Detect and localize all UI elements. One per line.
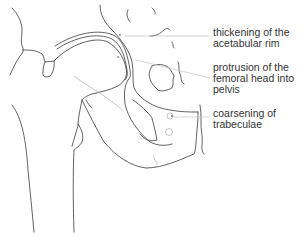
label-line: acetabular rim xyxy=(213,38,289,49)
label-trabeculae: coarsening of trabeculae xyxy=(213,108,276,130)
sacral-contour-3 xyxy=(150,29,170,37)
ilium-outline-left xyxy=(10,8,23,75)
leader-dot-trabeculae xyxy=(171,115,173,117)
acetabular-rim-outer xyxy=(55,32,130,80)
leader-line-femoral-head xyxy=(136,60,210,78)
pelvic-wall-right xyxy=(100,5,198,112)
intertrochanteric-line xyxy=(86,100,92,108)
leader-dot-acetabular-rim xyxy=(119,34,121,36)
femoral-shaft-medial xyxy=(73,150,74,232)
ilium-notch xyxy=(23,50,54,77)
femoral-head xyxy=(54,40,127,100)
obturator-edge xyxy=(133,100,157,141)
sacral-contour-4 xyxy=(172,42,174,48)
sacral-contour-1 xyxy=(127,10,130,22)
acetabular-rim-inner xyxy=(57,36,127,80)
sacral-contour-5 xyxy=(178,62,184,84)
label-acetabular-rim: thickening of the acetabular rim xyxy=(213,27,289,49)
greater-trochanter xyxy=(74,124,83,150)
label-line: pelvis xyxy=(213,84,294,95)
label-femoral-head-protrusion: protrusion of the femoral head into pelv… xyxy=(213,62,294,95)
femoral-neck-line xyxy=(72,100,82,146)
trabecular-patch-2 xyxy=(166,129,173,136)
femoral-shaft-lateral xyxy=(12,105,34,232)
leader-dot-femoral-head xyxy=(117,56,119,58)
pubic-edge xyxy=(200,105,204,154)
sacral-contour-2 xyxy=(152,8,155,14)
label-line: trabeculae xyxy=(213,119,276,130)
trabecular-patch-3 xyxy=(153,156,158,164)
